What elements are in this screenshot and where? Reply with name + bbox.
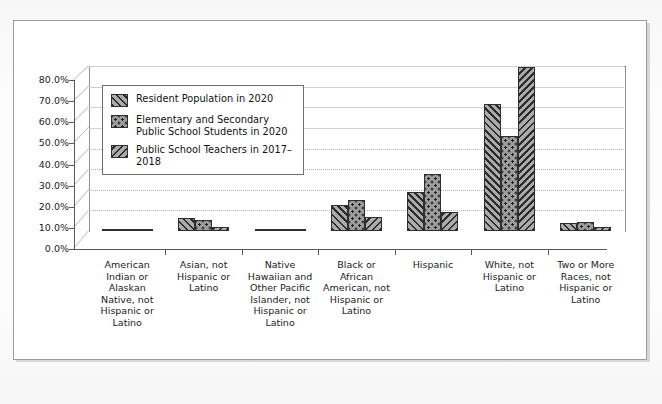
- x-axis-tick: [548, 249, 549, 255]
- legend-swatch-dots-icon: [111, 115, 128, 128]
- bar: [331, 205, 348, 231]
- y-axis-tick: [69, 165, 74, 166]
- x-axis-tick: [318, 249, 319, 255]
- x-axis-tick: [242, 249, 243, 255]
- y-axis-tick: [69, 228, 74, 229]
- y-axis-tick-label: 10.0%: [21, 223, 69, 232]
- bar: [424, 174, 441, 231]
- x-axis-category-label: Hispanic: [395, 259, 471, 328]
- depth-connector-line: [73, 65, 89, 80]
- y-axis-tick: [69, 122, 74, 123]
- legend-label: Resident Population in 2020: [136, 93, 273, 105]
- legend-swatch-forward-diagonal-icon: [111, 94, 128, 107]
- bar: [289, 229, 306, 231]
- x-axis-ticks: [89, 249, 624, 255]
- legend-item-public-school-students: Elementary and Secondary Public School S…: [111, 114, 295, 137]
- bar: [501, 136, 518, 231]
- x-axis-category-label: Native Hawaiian and Other Pacific Island…: [242, 259, 318, 328]
- x-axis-tick: [165, 249, 166, 255]
- bar: [441, 212, 458, 231]
- chart-canvas: 0.0%10.0%20.0%30.0%40.0%50.0%60.0%70.0%8…: [14, 21, 646, 359]
- bar: [484, 104, 501, 231]
- y-axis-tick: [69, 186, 74, 187]
- depth-connector-line: [73, 230, 89, 249]
- bar: [119, 229, 136, 231]
- legend-item-public-school-teachers: Public School Teachers in 2017–2018: [111, 144, 295, 167]
- y-axis-labels: 0.0%10.0%20.0%30.0%40.0%50.0%60.0%70.0%8…: [17, 21, 69, 359]
- x-axis-category-label: Black or African American, not Hispanic …: [318, 259, 394, 328]
- legend-swatch-backward-diagonal-icon: [111, 145, 128, 158]
- bar: [577, 222, 594, 231]
- x-axis-category-label: American Indian or Alaskan Native, not H…: [89, 259, 165, 328]
- plot-wrapper: 0.0%10.0%20.0%30.0%40.0%50.0%60.0%70.0%8…: [14, 21, 646, 359]
- figure-frame: 0.0%10.0%20.0%30.0%40.0%50.0%60.0%70.0%8…: [13, 20, 647, 360]
- bar: [136, 229, 153, 231]
- x-axis-category-labels: American Indian or Alaskan Native, not H…: [89, 259, 624, 328]
- bar: [407, 192, 424, 231]
- bar: [518, 67, 535, 231]
- y-axis-tick: [69, 101, 74, 102]
- depth-connector-line: [73, 127, 89, 143]
- y-axis-tick-label: 30.0%: [21, 181, 69, 190]
- bar-group: [548, 66, 624, 231]
- depth-connector-line: [73, 148, 89, 165]
- depth-connector-line: [73, 210, 89, 228]
- x-axis-tick: [395, 249, 396, 255]
- y-axis-tick-label: 60.0%: [21, 117, 69, 126]
- x-axis-tick: [471, 249, 472, 255]
- y-axis-tick: [69, 80, 74, 81]
- depth-connector-line: [73, 189, 89, 207]
- x-axis-category-label: Asian, not Hispanic or Latino: [165, 259, 241, 328]
- bar: [212, 227, 229, 231]
- bar: [102, 229, 119, 231]
- y-axis-tick-label: 70.0%: [21, 96, 69, 105]
- y-axis-tick-label: 20.0%: [21, 202, 69, 211]
- bar: [365, 217, 382, 231]
- legend-label: Elementary and Secondary Public School S…: [136, 114, 295, 137]
- bar-group: [395, 66, 471, 231]
- depth-connector-line: [73, 107, 89, 123]
- depth-connector-line: [73, 168, 89, 185]
- bar-group: [318, 66, 394, 231]
- depth-connector-line: [73, 86, 89, 101]
- y-axis-tick-label: 40.0%: [21, 160, 69, 169]
- bar: [178, 218, 195, 231]
- y-axis-line: [74, 80, 75, 250]
- bar: [272, 229, 289, 231]
- bar: [560, 223, 577, 231]
- y-axis-tick-label: 50.0%: [21, 138, 69, 147]
- bar: [348, 200, 365, 231]
- x-axis-category-label: White, not Hispanic or Latino: [471, 259, 547, 328]
- x-axis-category-label: Two or More Races, not Hispanic or Latin…: [548, 259, 624, 328]
- legend-label: Public School Teachers in 2017–2018: [136, 144, 295, 167]
- y-axis-tick-label: 80.0%: [21, 75, 69, 84]
- bar: [195, 220, 212, 231]
- bar: [255, 229, 272, 231]
- bar-group: [471, 66, 547, 231]
- y-axis-tick: [69, 249, 74, 250]
- y-axis-tick-label: 0.0%: [21, 244, 69, 253]
- legend-item-resident-population: Resident Population in 2020: [111, 93, 295, 107]
- y-axis-tick: [69, 207, 74, 208]
- bar: [594, 227, 611, 231]
- chart-legend: Resident Population in 2020 Elementary a…: [102, 85, 304, 175]
- y-axis-tick: [69, 143, 74, 144]
